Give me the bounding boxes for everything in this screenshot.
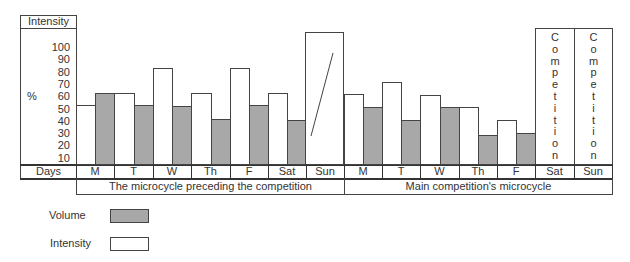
competition-letter: t (536, 91, 574, 103)
day-label: Th (459, 165, 497, 178)
day-label: F (497, 165, 535, 178)
day-divider (459, 164, 460, 179)
day-label: Sun (306, 165, 344, 178)
competition-letter: t (575, 91, 612, 103)
competition-letter: i (536, 103, 574, 115)
day-divider (574, 164, 575, 179)
bar-volume (401, 120, 421, 165)
day-divider (344, 164, 345, 179)
day-divider (382, 164, 383, 179)
competition-letter: o (536, 44, 574, 56)
competition-letter: o (575, 44, 612, 56)
bar-intensity (459, 107, 479, 165)
day-divider (535, 164, 536, 179)
bar-intensity (420, 95, 441, 165)
bar-intensity (344, 94, 364, 165)
day-label: M (344, 165, 382, 178)
day-divider (497, 164, 498, 179)
day-label: Sun (574, 165, 612, 178)
competition-letter: n (536, 150, 574, 162)
bar-intensity (382, 82, 402, 165)
bar-volume (363, 107, 383, 165)
bar-intensity (497, 120, 517, 165)
day-label: T (382, 165, 420, 178)
day-label: W (420, 165, 459, 178)
day-divider (306, 164, 307, 179)
bar-volume (440, 107, 460, 165)
competition-letter: i (575, 103, 612, 115)
day-divider (612, 164, 613, 179)
group-label-main: Main competition's microcycle (344, 178, 613, 195)
legend-intensity-label: Intensity (50, 237, 91, 250)
competition-box: Competition (574, 28, 613, 165)
bar-volume (478, 135, 498, 165)
competition-letter: n (575, 150, 612, 162)
competition-box: Competition (535, 28, 575, 165)
legend-volume-label: Volume (49, 209, 86, 222)
day-label: Sat (535, 165, 574, 178)
legend-volume-swatch (110, 209, 149, 223)
group-label-preceding: The microcycle preceding the competition (76, 178, 345, 195)
bar-volume (516, 133, 536, 165)
day-divider (420, 164, 421, 179)
legend-intensity-swatch (110, 237, 149, 251)
